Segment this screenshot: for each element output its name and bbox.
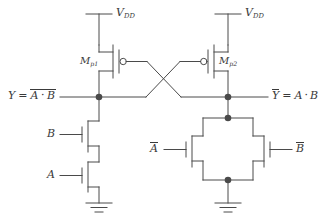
nmos-left-top-gate-label-text: B xyxy=(47,127,55,140)
output-label-right: Y=A·B xyxy=(272,89,318,102)
vdd-label-right-sub: DD xyxy=(253,12,264,20)
vdd-label-right: VDD xyxy=(245,7,264,20)
pmos-left-label-m: M xyxy=(80,55,90,66)
pmos-right-label: Mp2 xyxy=(219,56,237,67)
nmos-left-top-gate-label: B xyxy=(47,128,55,139)
output-right-operand-b: B xyxy=(310,89,318,102)
pmos-left-gate-bubble xyxy=(120,58,126,64)
output-label-left: Y=A·B xyxy=(8,89,56,102)
vdd-label-left: VDD xyxy=(116,7,135,20)
nmos-right-right-gate-overline: B xyxy=(296,142,304,155)
vdd-label-left-sub: DD xyxy=(124,12,135,20)
output-right-eq: = xyxy=(282,89,291,102)
pmos-right-label-sub: p2 xyxy=(229,60,237,67)
output-left-eq: = xyxy=(18,89,27,102)
nmos-left-bot-gate-label-text: A xyxy=(47,168,55,181)
pmos-left-label-sub: p1 xyxy=(90,60,98,67)
pmos-right-label-m: M xyxy=(219,55,229,66)
nmos-right-left-gate-label: A xyxy=(150,142,158,155)
output-left-expression: A·B xyxy=(30,89,55,102)
vdd-label-left-v: V xyxy=(116,6,124,19)
output-right-var: Y xyxy=(272,89,279,102)
cross-couple-wire-left-to-right xyxy=(147,62,181,98)
pmos-left-label: Mp1 xyxy=(80,56,98,67)
pmos-right-gate-bubble xyxy=(201,58,207,64)
output-left-var: Y xyxy=(8,89,15,102)
output-left-operand-b: B xyxy=(47,89,56,102)
output-right-operand-a: A xyxy=(294,89,302,102)
nmos-right-right-gate-label-text: B xyxy=(296,142,304,155)
circuit-schematic-svg xyxy=(0,0,327,224)
cross-couple-wire-right-to-left xyxy=(146,62,180,98)
output-left-operator: · xyxy=(41,89,45,102)
nmos-right-left-gate-label-text: A xyxy=(150,142,158,155)
output-left-operand-a: A xyxy=(30,89,38,102)
output-right-var-wrap: Y xyxy=(272,89,279,102)
nmos-right-right-gate-label: B xyxy=(296,142,304,155)
nmos-right-left-gate-overline: A xyxy=(150,142,158,155)
schematic-canvas: VDD VDD Mp1 Mp2 Y=A·B Y=A·B B A A B xyxy=(0,0,327,224)
vdd-label-right-v: V xyxy=(245,6,253,19)
nmos-left-bot-gate-label: A xyxy=(47,169,55,180)
output-right-operator: · xyxy=(304,89,308,102)
